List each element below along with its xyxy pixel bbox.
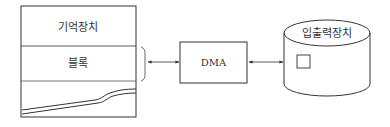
tear-line-upper	[22, 89, 136, 110]
dma-diagram: 기억장치 블록 DMA 입출력장치	[0, 0, 390, 127]
io-device: 입출력장치	[284, 20, 370, 96]
io-device-label: 입출력장치	[302, 27, 352, 40]
memory-unit: 기억장치 블록	[21, 6, 136, 117]
dma-label: DMA	[201, 57, 227, 68]
io-data-square-icon	[297, 55, 310, 68]
memory-title: 기억장치	[58, 21, 98, 34]
dma-controller: DMA	[180, 42, 247, 83]
memory-block-label: 블록	[68, 57, 88, 70]
block-brace	[141, 47, 145, 81]
tear-line-lower	[22, 93, 136, 114]
